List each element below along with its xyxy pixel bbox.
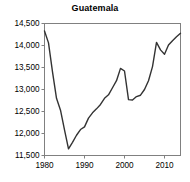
chart-container: Guatemala 14,50014,00013,50013,00012,500… (0, 0, 190, 182)
y-axis-tick-label: 11,500 (15, 151, 39, 160)
y-axis-tick-label: 13,500 (14, 63, 39, 72)
y-axis-tick-label: 14,500 (14, 19, 39, 28)
y-axis-tick-label: 12,500 (14, 107, 39, 116)
x-axis-tick-label: 1990 (65, 161, 105, 170)
x-axis-tick-label: 2010 (145, 161, 185, 170)
x-axis-tick-label: 1980 (25, 161, 65, 170)
data-series-line (45, 31, 181, 149)
y-axis-tick-label: 12,000 (14, 129, 39, 138)
y-axis-tick-label: 13,000 (14, 85, 39, 94)
x-axis-tick-label: 2000 (105, 161, 145, 170)
y-axis-tick-label: 14,000 (14, 41, 39, 50)
plot-frame (45, 24, 181, 156)
